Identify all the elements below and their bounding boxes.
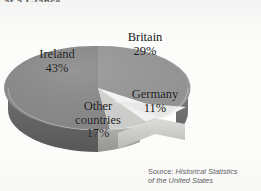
slice-label-ireland: Ireland 43% <box>22 48 92 75</box>
source-note: Source: Historical Statistics of the Uni… <box>148 167 256 186</box>
source-title-line2: of the United States <box>148 176 213 185</box>
slice-label-britain: Britain 29% <box>112 31 178 58</box>
source-title-line1: Historical Statistics <box>176 167 238 176</box>
source-prefix: Source: <box>148 167 176 176</box>
slice-label-other-countries: Other countries 17% <box>62 100 134 141</box>
scanned-page: at a Glance <box>0 0 261 191</box>
